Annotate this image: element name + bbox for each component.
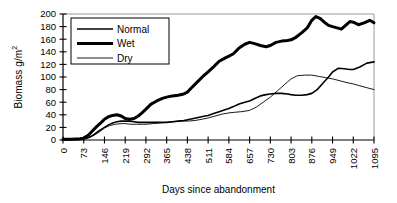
x-tick-label: 365 [161,148,172,164]
x-tick-label: 219 [120,148,131,164]
y-axis-label: Biomass g/m2 [6,14,28,140]
x-axis-label: Days since abandonment [0,184,397,195]
y-tick-label: 20 [45,122,56,133]
legend-box: NormalWetDry [71,18,169,64]
x-axis-label-text: Days since abandonment [122,184,275,195]
x-tick-label: 146 [99,148,110,164]
x-tick-label: 0 [58,148,69,153]
chart-figure: Biomass g/m2 020406080100120140160180200… [0,0,397,203]
x-tick-label: 876 [306,148,317,164]
y-tick-label: 140 [40,46,56,57]
line-chart-svg: 020406080100120140160180200 073146219292… [0,0,397,203]
y-tick-label: 40 [45,109,56,120]
x-tick-label: 584 [223,148,234,164]
x-tick-label: 949 [327,148,338,164]
y-axis-label-exponent: 2 [11,46,18,50]
y-tick-label: 80 [45,84,56,95]
series-line-dry [63,75,374,139]
x-tick-label: 73 [78,148,89,159]
legend-label-wet: Wet [117,38,135,49]
x-tick-label: 730 [265,148,276,164]
y-tick-label: 0 [51,134,56,145]
x-tick-label: 1022 [348,148,359,169]
y-tick-label: 100 [40,71,56,82]
y-tick-label: 180 [40,21,56,32]
x-tick-group: 0731462192923654385115846577308038769491… [58,137,380,170]
series-line-normal [63,62,374,139]
y-axis-label-text: Biomass g/m [12,50,23,109]
y-tick-label: 60 [45,97,56,108]
x-tick-label: 803 [286,148,297,164]
x-tick-label: 511 [203,148,214,163]
y-tick-label: 200 [40,8,56,19]
x-tick-label: 657 [244,148,255,164]
x-tick-label: 438 [182,148,193,164]
y-tick-label: 120 [40,59,56,70]
x-tick-label: 1095 [369,148,380,169]
y-tick-label: 160 [40,34,56,45]
x-tick-label: 292 [141,148,152,164]
legend-label-dry: Dry [117,53,133,64]
legend-label-normal: Normal [117,24,149,35]
